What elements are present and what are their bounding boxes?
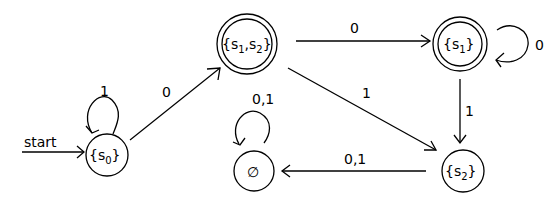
empty-set-icon: ∅ <box>247 164 259 180</box>
edge-s0-s1s2: 0 <box>130 68 220 140</box>
edge-label: 0 <box>350 20 359 36</box>
edge-label: 1 <box>362 85 371 101</box>
edge-label: 0,1 <box>344 151 366 167</box>
start-label: start <box>24 134 57 150</box>
state-s1: {s1} <box>433 17 487 71</box>
edge-s1-s1: 0 <box>496 26 544 67</box>
edge-label: 0,1 <box>252 91 274 107</box>
state-s0: {s0} <box>86 134 128 176</box>
edge-label: 1 <box>100 83 109 99</box>
state-s2: {s2} <box>442 150 484 192</box>
start-arrow: start <box>22 134 84 158</box>
edge-s1-s2: 1 <box>454 79 474 143</box>
dfa-diagram: start 1 0 0 1 0 1 0,1 <box>0 0 560 199</box>
state-empty: ∅ <box>234 151 274 191</box>
edge-label: 0 <box>535 37 544 53</box>
edge-s0-s0: 1 <box>86 83 118 134</box>
edge-empty-empty: 0,1 <box>233 91 274 145</box>
edge-label: 1 <box>465 103 474 119</box>
edge-label: 0 <box>162 84 171 100</box>
edge-s2-empty: 0,1 <box>282 151 426 177</box>
edge-s1s2-s1: 0 <box>296 20 430 47</box>
edge-s1s2-s2: 1 <box>288 68 436 150</box>
state-s1s2: {s1,s2} <box>217 14 277 74</box>
